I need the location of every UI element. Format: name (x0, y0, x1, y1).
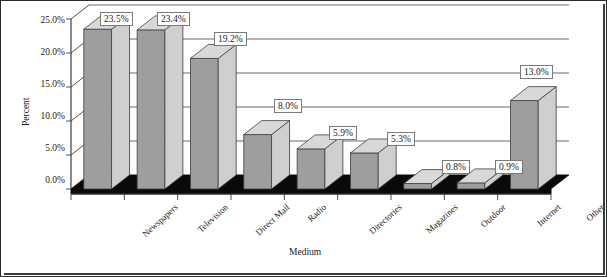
data-label-direct-mail: 19.2% (214, 32, 247, 46)
y-tick-label: 5.0% (23, 143, 65, 153)
y-tick-label: 25.0% (23, 15, 65, 25)
y-tick-label: 20.0% (23, 47, 65, 57)
data-label-internet: 0.9% (495, 160, 523, 174)
data-label-newspapers: 23.5% (100, 12, 133, 26)
bar-newspapers (84, 15, 130, 189)
data-label-radio: 8.0% (274, 99, 302, 113)
chart-plot-area (1, 1, 607, 277)
data-label-other: 13.0% (520, 65, 553, 79)
figure-frame: 25.0% 20.0% 15.0% 10.0% 5.0% 0.0% Percen… (0, 0, 607, 277)
y-tick-label: 0.0% (23, 175, 65, 185)
y-tick-label: 15.0% (23, 79, 65, 89)
data-label-directories: 5.9% (329, 126, 357, 140)
bar-radio (244, 121, 290, 189)
data-label-television: 23.4% (157, 12, 190, 26)
data-label-outdoor: 0.8% (442, 160, 470, 174)
bar-chart-3d: 25.0% 20.0% 15.0% 10.0% 5.0% 0.0% Percen… (1, 1, 607, 277)
data-label-magazines: 5.3% (387, 132, 415, 146)
bar-direct-mail (190, 44, 236, 189)
y-axis-title: Percent (21, 98, 31, 127)
x-axis-title: Medium (289, 247, 321, 257)
bar-television (137, 16, 183, 189)
